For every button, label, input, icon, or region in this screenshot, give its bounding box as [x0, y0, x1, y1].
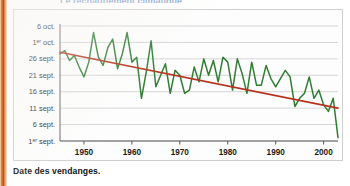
- x-axis-tick-label: 1950: [75, 148, 94, 157]
- figure-caption: Date des vendanges.: [13, 166, 100, 176]
- x-axis-tick-label: 1970: [171, 148, 190, 157]
- page-edge-bar: [0, 0, 7, 186]
- y-axis-tick-label: 6 oct.: [37, 22, 55, 31]
- x-axis-tick-labels: 195019601970198019902000: [75, 148, 333, 157]
- x-axis-tick-label: 1990: [267, 148, 286, 157]
- y-axis-tick-label: 1ᵉʳ oct.: [32, 38, 55, 47]
- page-seam: [3, 0, 4, 186]
- chart-plot-area: 1ᵉʳ sept.6 sept.11 sept.16 sept.21 sept.…: [14, 10, 342, 160]
- y-axis-tick-label: 6 sept.: [33, 120, 55, 129]
- gridlines-group: [60, 26, 338, 141]
- x-axis-tick-label: 1980: [219, 148, 238, 157]
- y-axis-tick-labels: 1ᵉʳ sept.6 sept.11 sept.16 sept.21 sept.…: [28, 22, 55, 146]
- x-axis-tick-label: 1960: [123, 148, 142, 157]
- trend-line-linear: [60, 52, 338, 108]
- cropped-page-headline: Le réchauffement climatique: [60, 0, 310, 3]
- x-axis-tickmarks: [84, 141, 324, 145]
- y-axis-tick-label: 21 sept.: [29, 71, 55, 80]
- figure-panel: 1ᵉʳ sept.6 sept.11 sept.16 sept.21 sept.…: [13, 9, 343, 161]
- harvest-date-line-chart: 1ᵉʳ sept.6 sept.11 sept.16 sept.21 sept.…: [14, 10, 342, 160]
- series-line-harvest-date: [60, 33, 338, 138]
- y-axis-tick-label: 1ᵉʳ sept.: [28, 137, 55, 146]
- y-axis-tick-label: 11 sept.: [29, 104, 55, 113]
- y-axis-tick-label: 16 sept.: [29, 87, 55, 96]
- x-axis-tick-label: 2000: [315, 148, 334, 157]
- y-axis-tick-label: 26 sept.: [29, 54, 55, 63]
